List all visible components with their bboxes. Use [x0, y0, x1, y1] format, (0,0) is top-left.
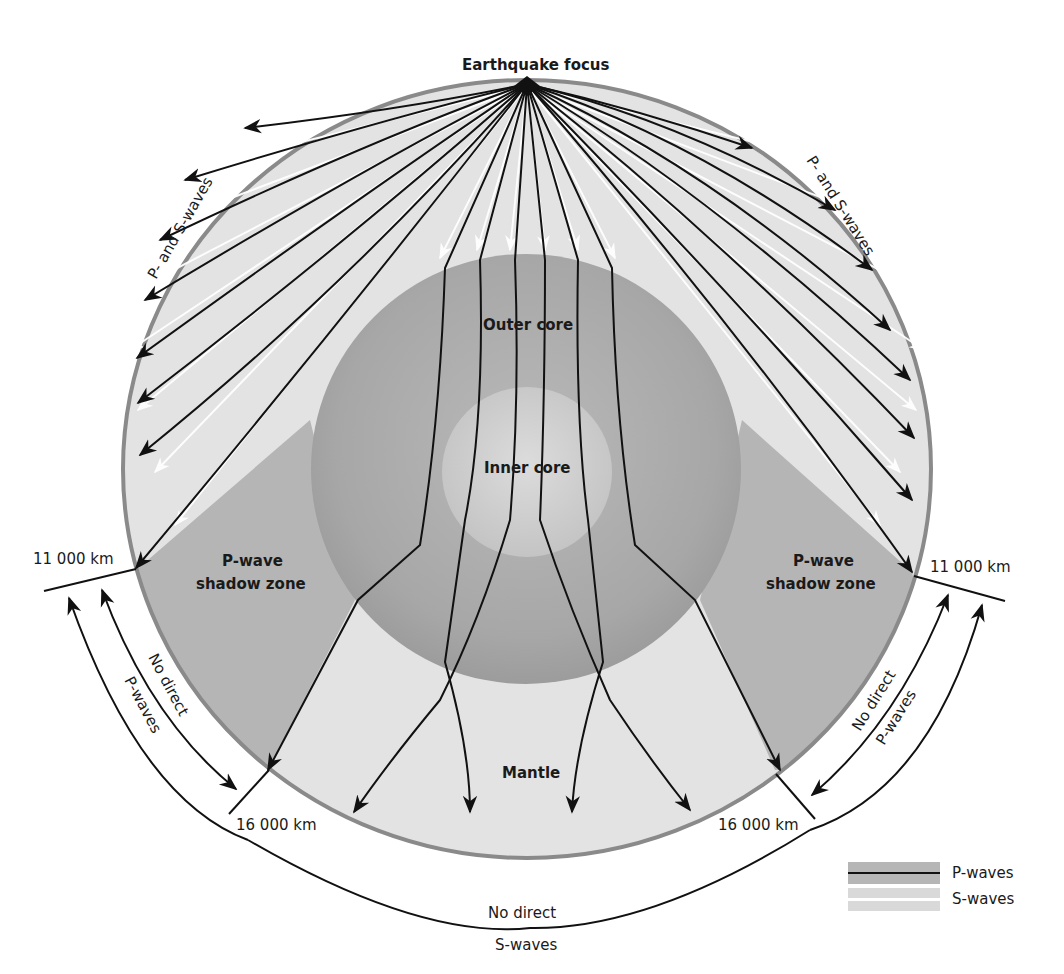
marker-11000-right [914, 576, 1005, 601]
legend-label-p-waves: P-waves [952, 864, 1014, 882]
s-wave-swatch-bottom [848, 901, 940, 911]
marker-16000-right [776, 774, 815, 819]
marker-11000-left [44, 569, 136, 591]
legend-item-p-waves: P-waves [848, 862, 1048, 884]
earth-seismic-wave-diagram: Earthquake focus P- and S-waves P- and S… [0, 0, 1064, 974]
km-16000-right-label: 16 000 km [718, 816, 799, 834]
focus-label: Earthquake focus [462, 56, 610, 74]
marker-16000-left [229, 770, 269, 814]
mantle-label: Mantle [502, 764, 560, 782]
km-16000-left-label: 16 000 km [236, 816, 317, 834]
outer-core-label: Outer core [483, 316, 573, 334]
shadow-zone-right-label-2: shadow zone [766, 575, 876, 593]
shadow-zone-right-label-1: P-wave [793, 552, 854, 570]
km-11000-right-label: 11 000 km [930, 558, 1011, 576]
no-direct-s-label-2: S-waves [495, 936, 557, 954]
shadow-zone-left-label-1: P-wave [222, 552, 283, 570]
legend-item-s-waves: S-waves [848, 888, 1048, 910]
legend-label-s-waves: S-waves [952, 890, 1014, 908]
km-11000-left-label: 11 000 km [33, 550, 114, 568]
no-direct-s-label-1: No direct [488, 904, 556, 922]
p-wave-swatch [848, 862, 940, 884]
s-wave-swatch-top [848, 888, 940, 898]
inner-core-label: Inner core [484, 459, 571, 477]
legend: P-waves S-waves [848, 862, 1048, 910]
shadow-zone-left-label-2: shadow zone [196, 575, 306, 593]
